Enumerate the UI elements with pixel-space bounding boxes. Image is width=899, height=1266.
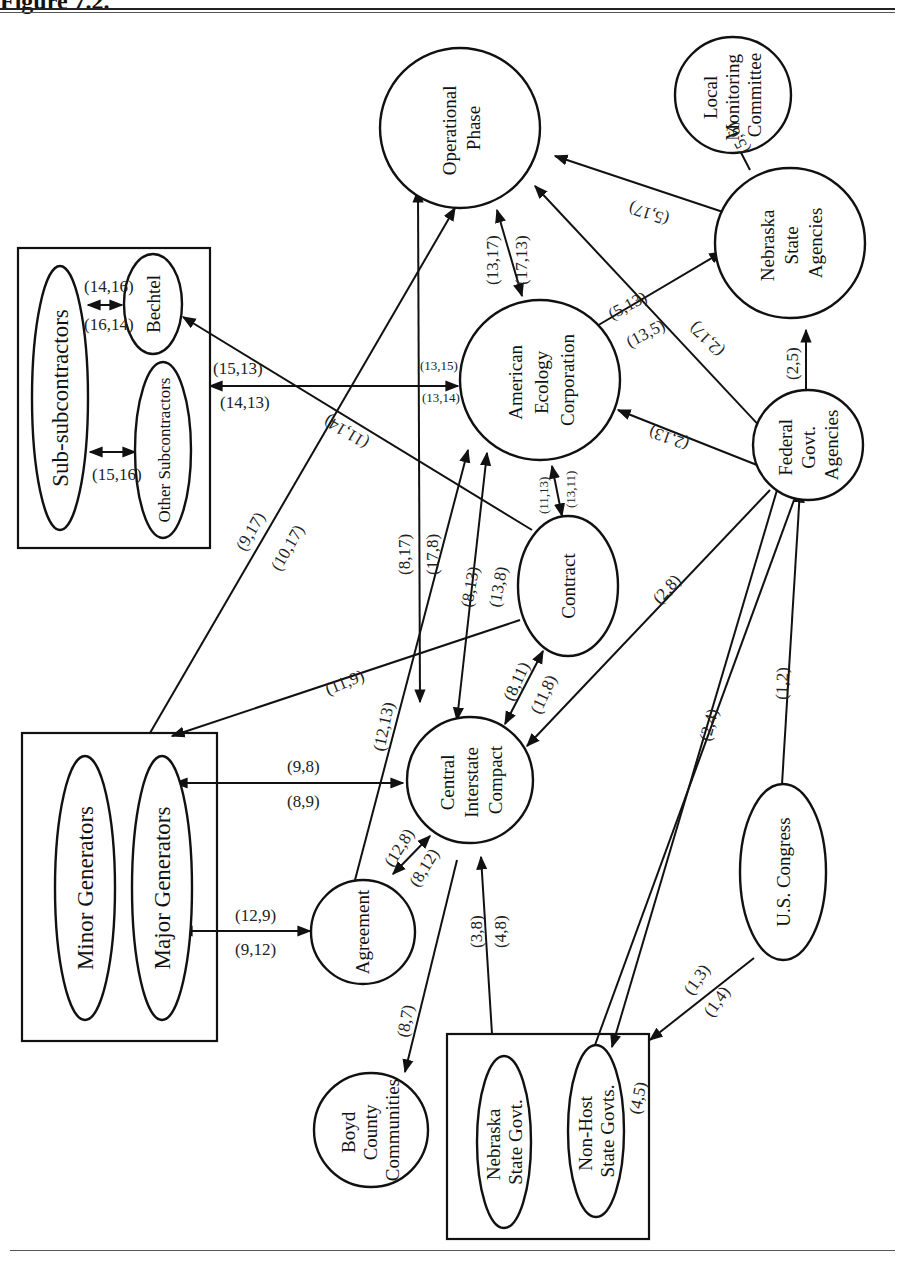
edge-label: (8,13) bbox=[457, 565, 483, 609]
edge-label: (5,17) bbox=[626, 199, 671, 230]
node-label: Agencies bbox=[821, 410, 842, 481]
edge-label: (2,4) bbox=[696, 707, 723, 743]
node-agreement[interactable]: Agreement bbox=[311, 880, 415, 984]
node-label: State Govt. bbox=[505, 1099, 526, 1185]
node-federal-govt-agencies[interactable]: Federal Govt. Agencies bbox=[753, 390, 863, 500]
node-label: Govt. bbox=[798, 426, 819, 469]
node-label: Nebraska bbox=[483, 1108, 504, 1180]
node-label: Sub-subcontractors bbox=[48, 309, 73, 487]
edge-label: (9,17) bbox=[232, 509, 269, 554]
edge-generators-operational bbox=[150, 208, 455, 733]
edge-label: (13,5) bbox=[623, 315, 668, 351]
node-label: Bechtel bbox=[143, 275, 164, 333]
node-label: Phase bbox=[463, 106, 484, 150]
edge-label: (15,16) bbox=[92, 465, 142, 484]
node-other-subcontractors[interactable]: Other Subcontractors bbox=[135, 362, 191, 538]
edge-cic-boyd bbox=[405, 860, 457, 1072]
svg-text:Non-Host State Govts.: Non-Host State Govts. bbox=[575, 1085, 618, 1178]
edge-label: (12,13) bbox=[369, 700, 398, 752]
node-label: Minor Generators bbox=[73, 806, 98, 970]
node-nebraska-state-agencies[interactable]: Nebraska State Agencies bbox=[715, 168, 865, 318]
edge-label: (2,5) bbox=[783, 347, 802, 380]
node-label: County bbox=[360, 1104, 381, 1160]
svg-text:American Ecology C: American Ecology Corporation bbox=[505, 334, 578, 426]
node-nebraska-state-govt[interactable]: Nebraska State Govt. bbox=[477, 1056, 531, 1228]
node-label: Agreement bbox=[352, 889, 373, 974]
node-non-host-state-govts[interactable]: Non-Host State Govts. bbox=[568, 1045, 624, 1217]
node-label: U.S. Congress bbox=[773, 817, 794, 926]
edge-label: (12,8) bbox=[380, 825, 418, 870]
node-label: Agencies bbox=[805, 208, 826, 279]
edge-aec-contract bbox=[552, 466, 562, 516]
edge-label: (8,12) bbox=[405, 845, 443, 890]
node-label: Communities bbox=[382, 1079, 403, 1181]
edge-label: (14,16) bbox=[84, 277, 134, 296]
node-label: State bbox=[781, 226, 802, 264]
node-bechtel[interactable]: Bechtel bbox=[124, 254, 182, 354]
node-minor-generators[interactable]: Minor Generators bbox=[55, 756, 115, 1020]
node-label: Compact bbox=[485, 745, 506, 814]
edge-label: (11,8) bbox=[526, 672, 560, 717]
edge-label: (4,5) bbox=[625, 1080, 650, 1116]
edge-label: (11,13) bbox=[536, 477, 551, 514]
node-label: American bbox=[505, 344, 526, 419]
edge-congress-fed bbox=[782, 490, 800, 784]
edge-label: (16,14) bbox=[84, 315, 134, 334]
edge-label: (13,14) bbox=[422, 390, 460, 405]
edge-label: (9,12) bbox=[235, 940, 276, 959]
edge-label: (2,8) bbox=[649, 571, 685, 608]
edge-label: (8,9) bbox=[287, 792, 320, 811]
edge-label: (13,15) bbox=[420, 358, 458, 373]
network-diagram: Operational Phase Local Monitoring Commi… bbox=[0, 0, 899, 1266]
node-label: State Govts. bbox=[597, 1085, 618, 1178]
edge-label: (12,9) bbox=[235, 906, 276, 925]
edge-label: (9,8) bbox=[287, 757, 320, 776]
svg-text:Nebraska State Govt.: Nebraska State Govt. bbox=[483, 1099, 526, 1185]
node-label: Central bbox=[437, 754, 458, 810]
node-sub-subcontractors[interactable]: Sub-subcontractors bbox=[32, 266, 88, 530]
edge-label: (3,8) bbox=[467, 915, 486, 948]
edge-label: (4,8) bbox=[491, 915, 510, 948]
svg-text:Central Interstate: Central Interstate Compact bbox=[437, 742, 506, 817]
edges bbox=[88, 141, 806, 1072]
node-label: Interstate bbox=[461, 747, 482, 818]
edge-label: (1,2) bbox=[772, 667, 792, 700]
node-label: Federal bbox=[775, 419, 796, 476]
edge-label: (14,13) bbox=[220, 393, 270, 412]
edge-fed-nonhost bbox=[612, 480, 780, 1047]
node-major-generators[interactable]: Major Generators bbox=[132, 756, 192, 1020]
edge-label: (5,13) bbox=[605, 287, 650, 323]
node-label: Local bbox=[700, 76, 721, 119]
node-label: Contract bbox=[558, 553, 579, 619]
edge-label: (8,11) bbox=[499, 659, 533, 704]
node-label: Boyd bbox=[338, 1111, 359, 1153]
node-label: Corporation bbox=[557, 334, 578, 426]
edge-label: (11,9) bbox=[322, 666, 367, 699]
node-label: Major Generators bbox=[150, 807, 175, 970]
edge-label: (13,17) bbox=[483, 235, 502, 285]
node-label: Ecology bbox=[531, 350, 552, 414]
node-operational-phase[interactable]: Operational Phase bbox=[380, 48, 540, 208]
edge-label: (15,13) bbox=[213, 359, 263, 378]
edge-label: (17,13) bbox=[512, 235, 531, 285]
edge-label: (13,11) bbox=[563, 471, 578, 508]
node-us-congress[interactable]: U.S. Congress bbox=[740, 784, 826, 960]
edge-label: (2,13) bbox=[646, 422, 691, 454]
node-american-ecology-corporation[interactable]: American Ecology Corporation bbox=[460, 300, 620, 460]
edge-label: (13,8) bbox=[485, 565, 511, 609]
node-central-interstate-compact[interactable]: Central Interstate Compact bbox=[407, 717, 533, 843]
node-label: Other Subcontractors bbox=[155, 378, 174, 523]
node-label: Non-Host bbox=[575, 1095, 596, 1171]
node-contract[interactable]: Contract bbox=[518, 516, 618, 656]
node-label: Operational bbox=[439, 86, 460, 176]
edge-label: (8,17) bbox=[395, 534, 414, 575]
edge-label: (17,8) bbox=[423, 534, 442, 575]
node-boyd-county-communities[interactable]: Boyd County Communities bbox=[314, 1073, 428, 1187]
node-label: Nebraska bbox=[757, 209, 778, 281]
edge-label: (1,4) bbox=[700, 983, 734, 1021]
node-label: Committee bbox=[744, 53, 765, 137]
edge-label: (10,17) bbox=[267, 522, 308, 574]
